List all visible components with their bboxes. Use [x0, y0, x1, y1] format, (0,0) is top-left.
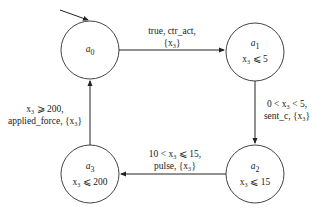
state-a2-label: a2 x₃ ⩽ 15	[230, 160, 280, 188]
state-a3-invariant: x₃ ⩽ 200	[60, 176, 120, 188]
state-a0-label: a0	[70, 43, 110, 59]
state-a1-label: a1 x₃ ⩽ 5	[230, 37, 280, 65]
edge-a2-a3-label: 10 < x₃ ⩽ 15, pulse, {x₃}	[130, 148, 220, 172]
edge-a1-a2-label: 0 < x₃ < 5, sent_c, {x₃}	[256, 98, 313, 122]
state-a3-label: a3 x₃ ⩽ 200	[60, 160, 120, 188]
edge-a3-a0-label: x₃ ⩾ 200, applied_force, {x₃}	[2, 103, 88, 127]
state-a2-invariant: x₃ ⩽ 15	[230, 176, 280, 188]
initial-arrow	[60, 10, 88, 20]
edge-a0-a1-label: true, ctr_act, {x₃}	[127, 25, 217, 49]
state-a1-invariant: x₃ ⩽ 5	[230, 53, 280, 65]
